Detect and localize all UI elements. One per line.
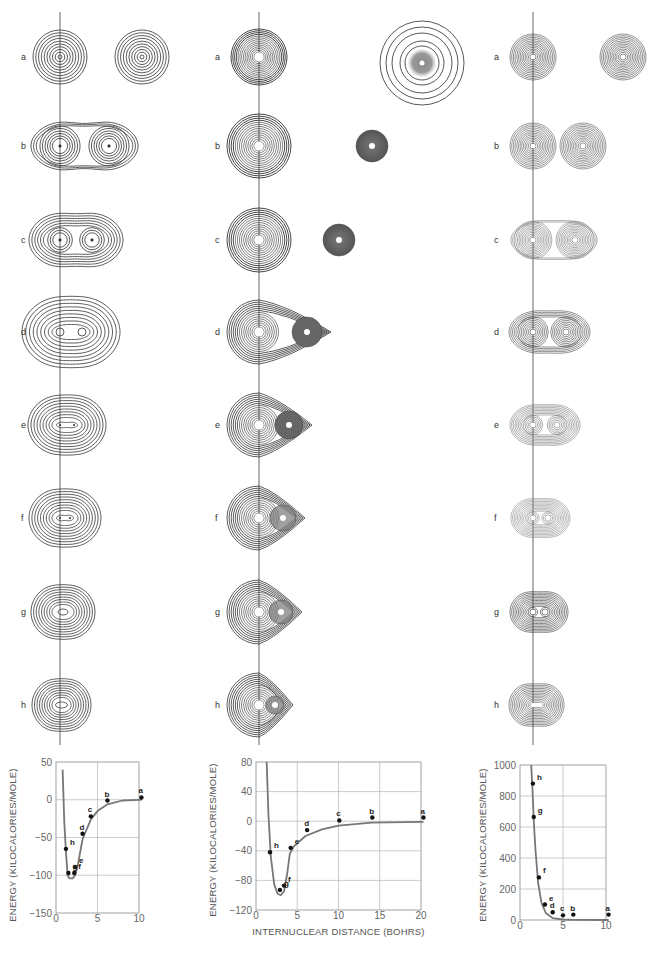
contour-map-middle-a: a [215,21,464,105]
svg-text:5: 5 [95,913,101,924]
svg-text:c: c [336,809,341,818]
svg-text:b: b [104,790,109,799]
energy-plot-middle: 80400−40−80−12005101520ENERGY (KILOCALOR… [200,745,470,957]
svg-text:−40: −40 [235,845,252,856]
contour-map-left-f: f [21,489,101,547]
svg-text:f: f [543,866,546,875]
svg-text:10: 10 [333,910,345,921]
svg-text:e: e [215,420,220,430]
svg-text:−50: −50 [35,832,52,843]
contour-maps-middle: abcdefgh [200,0,470,745]
svg-text:d: d [550,901,555,910]
contour-column-right: abcdefgh [470,0,649,745]
svg-text:d: d [304,819,309,828]
svg-text:a: a [420,807,425,816]
svg-text:50: 50 [41,757,53,768]
svg-text:a: a [138,786,143,795]
contour-map-left-b: b [21,122,138,170]
svg-text:20: 20 [415,910,427,921]
svg-text:h: h [537,773,542,782]
contour-map-middle-c: c [215,208,355,272]
contour-map-right-b: b [494,123,606,169]
svg-text:h: h [70,838,75,847]
svg-text:10: 10 [600,920,612,931]
svg-text:f: f [21,513,24,523]
svg-text:10: 10 [133,913,145,924]
energy-plot-right: 100080060040020000510ENERGY (KILOCALORIE… [470,745,649,957]
contour-map-middle-g: g [215,580,302,644]
contour-map-left-e: e [21,395,106,455]
contour-map-right-e: e [494,405,580,446]
svg-text:−100: −100 [29,870,52,881]
svg-text:0: 0 [246,816,252,827]
svg-text:g: g [72,862,77,871]
svg-text:h: h [21,700,26,710]
svg-text:g: g [21,607,26,617]
contour-map-right-c: c [494,221,597,260]
energy-chart-left: 500−50−100−1500510ENERGY (KILOCALORIES/M… [0,745,200,957]
contour-map-left-d: d [21,296,120,367]
svg-text:h: h [494,700,499,710]
svg-text:d: d [494,327,499,337]
svg-text:e: e [21,420,26,430]
svg-text:ENERGY (KILOCALORIES/MOLE): ENERGY (KILOCALORIES/MOLE) [207,763,218,916]
svg-text:f: f [215,513,218,523]
svg-text:200: 200 [499,884,516,895]
svg-text:1000: 1000 [494,760,517,771]
contour-maps-left: abcdefgh [0,0,200,745]
contour-map-right-g: g [494,592,568,633]
contour-map-left-a: a [21,30,169,84]
svg-text:f: f [78,862,81,871]
svg-text:c: c [215,235,220,245]
svg-text:b: b [369,807,374,816]
svg-text:e: e [295,837,300,846]
contour-map-left-g: g [21,585,95,640]
svg-text:INTERNUCLEAR DISTANCE (BOHRS): INTERNUCLEAR DISTANCE (BOHRS) [252,926,424,937]
contour-map-right-f: f [494,499,570,538]
svg-text:h: h [215,700,220,710]
contour-map-middle-f: f [215,486,305,550]
svg-text:a: a [606,904,611,913]
svg-text:g: g [215,607,220,617]
svg-text:0: 0 [53,913,59,924]
svg-text:5: 5 [560,920,566,931]
svg-text:−120: −120 [229,905,252,916]
svg-text:g: g [494,607,499,617]
svg-text:d: d [215,327,220,337]
contour-map-middle-b: b [215,114,388,178]
svg-text:−150: −150 [29,908,52,919]
svg-text:c: c [88,805,93,814]
contour-column-left: abcdefgh [0,0,200,745]
svg-text:c: c [494,235,499,245]
svg-text:0: 0 [253,910,259,921]
svg-text:5: 5 [294,910,300,921]
svg-text:b: b [494,141,499,151]
svg-text:f: f [494,513,497,523]
svg-text:e: e [549,894,554,903]
svg-text:40: 40 [241,786,253,797]
contour-map-left-c: c [21,213,123,266]
svg-text:400: 400 [499,853,516,864]
contour-map-right-a: a [494,34,646,80]
svg-text:0: 0 [46,794,52,805]
contour-map-middle-d: d [215,300,331,364]
svg-text:b: b [570,904,575,913]
svg-text:b: b [215,141,220,151]
contour-maps-right: abcdefgh [470,0,649,745]
svg-text:0: 0 [517,920,523,931]
svg-text:e: e [494,420,499,430]
contour-map-middle-e: e [215,393,312,457]
energy-chart-right: 100080060040020000510ENERGY (KILOCALORIE… [470,745,649,957]
contour-map-left-h: h [21,679,91,732]
svg-text:15: 15 [374,910,386,921]
svg-text:0: 0 [510,915,516,926]
svg-text:ENERGY (KILOCALORIES/MOLE): ENERGY (KILOCALORIES/MOLE) [7,768,18,921]
svg-text:c: c [21,235,26,245]
energy-chart-middle: 80400−40−80−12005101520ENERGY (KILOCALOR… [200,745,470,957]
svg-text:a: a [21,52,26,62]
svg-text:800: 800 [499,791,516,802]
energy-plot-left: 500−50−100−1500510ENERGY (KILOCALORIES/M… [0,745,200,957]
svg-text:600: 600 [499,822,516,833]
svg-text:g: g [284,879,289,888]
contour-map-right-d: d [494,311,590,353]
